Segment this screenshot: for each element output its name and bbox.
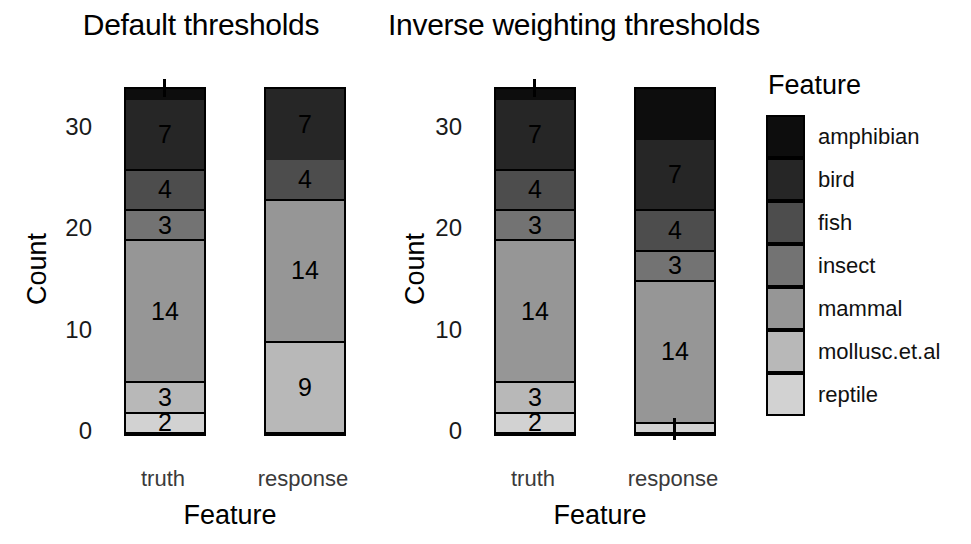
- bar-segment-insect[interactable]: 3: [496, 211, 574, 241]
- bar-segment-insect[interactable]: 3: [636, 252, 714, 282]
- chart-panel-default-thresholds: Default thresholdsCount01020307431432tru…: [0, 0, 380, 544]
- legend-item[interactable]: bird: [758, 158, 971, 201]
- bar-segment-value-label: 7: [668, 162, 682, 187]
- bar-segment-bird[interactable]: 7: [636, 140, 714, 211]
- x-axis-title: Feature: [120, 500, 340, 531]
- bar-segment-bird[interactable]: 7: [126, 100, 204, 171]
- bar-segment-fish[interactable]: 4: [266, 160, 344, 201]
- y-tick-label: 30: [46, 113, 92, 141]
- bar-segment-value-label: 3: [668, 253, 682, 278]
- bar-segment-mollusc-et-al[interactable]: 3: [496, 383, 574, 413]
- stacked-bar-truth[interactable]: 7431432: [494, 87, 576, 436]
- stacked-bar-chart-figure: Default thresholdsCount01020307431432tru…: [0, 0, 971, 544]
- bar-segment-value-label: 14: [521, 299, 549, 324]
- legend-item[interactable]: mammal: [758, 287, 971, 330]
- y-tick-label: 10: [416, 316, 462, 344]
- bar-segment-value-label: 4: [528, 177, 542, 202]
- legend: Featureamphibianbirdfishinsectmammalmoll…: [758, 70, 971, 430]
- legend-label: mammal: [818, 296, 902, 322]
- axis-tickmark: [163, 79, 166, 97]
- legend-item[interactable]: fish: [758, 201, 971, 244]
- bar-segment-bird[interactable]: 7: [266, 89, 344, 160]
- bar-segment-fish[interactable]: 4: [126, 171, 204, 212]
- y-tick-label: 30: [416, 113, 462, 141]
- stacked-bar-response[interactable]: 74314: [634, 87, 716, 436]
- bar-segment-insect[interactable]: 3: [126, 211, 204, 241]
- bar-segment-value-label: 2: [158, 414, 172, 434]
- y-tick-label: 10: [46, 316, 92, 344]
- legend-swatch-reptile: [766, 373, 805, 416]
- stacked-bar-truth[interactable]: 7431432: [124, 87, 206, 436]
- x-tick-label: response: [598, 466, 748, 492]
- legend-item[interactable]: mollusc.et.al: [758, 330, 971, 373]
- legend-label: fish: [818, 210, 852, 236]
- bar-segment-value-label: 14: [151, 299, 179, 324]
- legend-swatch-mollusc-et-al: [766, 330, 805, 373]
- stacked-bar-response[interactable]: 74149: [264, 87, 346, 436]
- panel-title: Inverse weighting thresholds: [370, 8, 760, 42]
- bar-segment-value-label: 3: [528, 385, 542, 410]
- legend-swatch-amphibian: [766, 115, 805, 158]
- bar-segment-value-label: 7: [528, 122, 542, 147]
- bar-segment-value-label: 14: [291, 258, 319, 283]
- bar-segment-reptile[interactable]: 2: [496, 414, 574, 434]
- legend-label: reptile: [818, 382, 878, 408]
- bar-segment-value-label: 4: [158, 177, 172, 202]
- legend-swatch-fish: [766, 201, 805, 244]
- y-tick-label: 0: [416, 417, 462, 445]
- bar-segment-mammal[interactable]: 14: [636, 282, 714, 424]
- x-tick-label: response: [228, 466, 378, 492]
- bar-segment-fish[interactable]: 4: [636, 211, 714, 252]
- axis-tickmark: [673, 418, 676, 440]
- y-tick-label: 0: [46, 417, 92, 445]
- bar-segment-value-label: 3: [528, 213, 542, 238]
- bar-segment-mollusc-et-al[interactable]: 3: [126, 383, 204, 413]
- y-axis-title: Count: [400, 233, 431, 305]
- legend-swatch-insect: [766, 244, 805, 287]
- x-axis-title: Feature: [490, 500, 710, 531]
- legend-swatch-bird: [766, 158, 805, 201]
- bar-segment-value-label: 3: [158, 213, 172, 238]
- legend-swatch-mammal: [766, 287, 805, 330]
- x-tick-label: truth: [88, 466, 238, 492]
- bar-segment-mollusc-et-al[interactable]: 9: [266, 343, 344, 434]
- y-tick-label: 20: [46, 214, 92, 242]
- bar-segment-value-label: 9: [298, 375, 312, 400]
- y-tick-label: 20: [416, 214, 462, 242]
- bar-segment-fish[interactable]: 4: [496, 171, 574, 212]
- bar-segment-value-label: 7: [298, 112, 312, 137]
- legend-item[interactable]: reptile: [758, 373, 971, 416]
- legend-item[interactable]: insect: [758, 244, 971, 287]
- bar-segment-value-label: 14: [661, 339, 689, 364]
- chart-panel-inverse-weighting-thresholds: Inverse weighting thresholdsCount0102030…: [370, 0, 760, 544]
- bar-segment-value-label: 2: [528, 414, 542, 434]
- y-axis-title: Count: [22, 233, 53, 305]
- bar-segment-reptile[interactable]: 2: [126, 414, 204, 434]
- bar-segment-value-label: 3: [158, 385, 172, 410]
- bar-segment-bird[interactable]: 7: [496, 100, 574, 171]
- bar-segment-mammal[interactable]: 14: [496, 241, 574, 383]
- x-tick-label: truth: [458, 466, 608, 492]
- legend-label: bird: [818, 167, 855, 193]
- bar-segment-mammal[interactable]: 14: [126, 241, 204, 383]
- bar-segment-value-label: 7: [158, 122, 172, 147]
- legend-label: mollusc.et.al: [818, 339, 940, 365]
- bar-segment-mammal[interactable]: 14: [266, 201, 344, 343]
- bar-segment-value-label: 4: [298, 167, 312, 192]
- legend-title: Feature: [768, 70, 861, 101]
- bar-segment-value-label: 4: [668, 218, 682, 243]
- axis-tickmark: [533, 79, 536, 97]
- legend-item[interactable]: amphibian: [758, 115, 971, 158]
- legend-label: amphibian: [818, 124, 920, 150]
- panel-title: Default thresholds: [0, 8, 380, 42]
- legend-label: insect: [818, 253, 875, 279]
- bar-segment-amphibian[interactable]: [636, 89, 714, 140]
